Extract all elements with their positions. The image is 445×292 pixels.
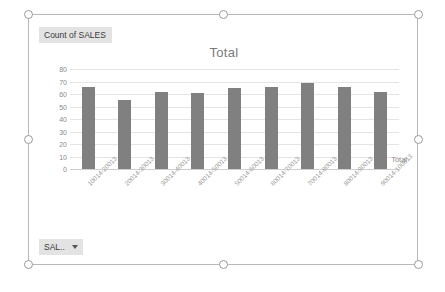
axis-field-label: SAL.. [44,242,65,252]
y-axis-tick-labels: 01020304050607080 [41,69,67,169]
chevron-down-icon [72,245,78,249]
bar[interactable] [374,92,387,170]
bar[interactable] [155,92,168,170]
legend-field-label: Count of SALES [44,30,106,40]
bar[interactable] [301,83,314,169]
resize-handle-bottom-right[interactable] [414,260,423,269]
bar[interactable] [228,88,241,169]
bar[interactable] [338,87,351,170]
legend-field-button[interactable]: Count of SALES [39,27,112,43]
y-axis-tick: 30 [41,128,67,135]
bar-series[interactable] [70,69,399,169]
y-axis-tick: 20 [41,141,67,148]
bar[interactable] [265,87,278,170]
resize-handle-top-right[interactable] [414,10,423,19]
y-axis-tick: 80 [41,66,67,73]
y-axis-tick: 70 [41,78,67,85]
y-axis-tick: 0 [41,166,67,173]
chart-title: Total [29,45,419,60]
resize-handle-bottom-left[interactable] [24,260,33,269]
bar[interactable] [191,93,204,169]
y-axis-tick: 10 [41,153,67,160]
axis-field-button[interactable]: SAL.. [39,239,83,255]
y-axis-tick: 60 [41,91,67,98]
resize-handle-top-center[interactable] [219,10,228,19]
y-axis-tick: 40 [41,116,67,123]
resize-handle-bottom-center[interactable] [219,260,228,269]
x-axis-category-labels: 10014-2001320014-3001330014-4001340014-5… [70,182,399,244]
bar[interactable] [118,100,131,169]
resize-handle-top-left[interactable] [24,10,33,19]
y-axis-tick: 50 [41,103,67,110]
plot-area [70,69,399,170]
pivot-chart-object[interactable]: Count of SALES Total 01020304050607080 1… [28,14,418,265]
resize-handle-middle-right[interactable] [414,135,423,144]
bar[interactable] [82,87,95,170]
plot-wrapper: 01020304050607080 [41,69,409,181]
resize-handle-middle-left[interactable] [24,135,33,144]
